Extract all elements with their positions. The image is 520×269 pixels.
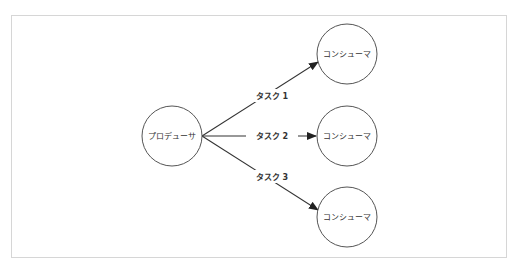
edge-label-task-2: タスク 2	[256, 131, 288, 141]
producer-label: プロデューサ	[148, 131, 196, 141]
consumer-node-3: コンシューマ	[317, 187, 377, 247]
edge-task-1: タスク 1	[202, 62, 318, 136]
consumer-label-2: コンシューマ	[323, 132, 371, 141]
edge-label-task-1: タスク 1	[256, 91, 289, 101]
consumer-label-1: コンシューマ	[323, 50, 371, 59]
consumer-node-1: コンシューマ	[317, 24, 377, 84]
edge-task-3: タスク 3	[202, 136, 318, 210]
producer-consumer-diagram: タスク 1 タスク 2 タスク 3 プロデューサ コンシューマ コンシューマ コ…	[0, 0, 520, 269]
consumer-node-2: コンシューマ	[317, 106, 377, 166]
producer-node: プロデューサ	[142, 106, 202, 166]
edge-task-2: タスク 2	[202, 129, 316, 142]
edge-label-task-3: タスク 3	[256, 172, 288, 182]
consumer-label-3: コンシューマ	[323, 213, 371, 222]
